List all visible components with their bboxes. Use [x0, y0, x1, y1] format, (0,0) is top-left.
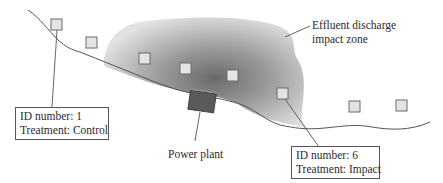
zone-label-leader	[285, 26, 310, 37]
callout-1-leader	[52, 30, 57, 107]
sample-site-marker[interactable]	[86, 37, 97, 48]
power-plant-icon	[188, 89, 217, 112]
sample-site-marker[interactable]	[139, 53, 150, 64]
callout-site-6: ID number: 6 Treatment: Impact	[291, 146, 380, 179]
sample-site-marker[interactable]	[277, 88, 288, 99]
sample-site-marker[interactable]	[51, 19, 62, 30]
sample-site-marker[interactable]	[396, 100, 407, 111]
impact-zone-label-line2: impact zone	[312, 33, 368, 45]
power-plant-leader	[195, 112, 200, 141]
callout-6-id: ID number: 6	[296, 149, 375, 163]
power-plant-label: Power plant	[168, 147, 223, 161]
sample-site-marker[interactable]	[349, 101, 360, 112]
sample-site-marker[interactable]	[227, 70, 238, 81]
impact-zone-label-line1: Effluent discharge	[312, 19, 396, 31]
callout-1-treatment: Treatment: Control	[20, 124, 104, 138]
impact-zone-label: Effluent discharge impact zone	[312, 18, 396, 46]
callout-site-1: ID number: 1 Treatment: Control	[15, 107, 109, 140]
callout-6-treatment: Treatment: Impact	[296, 163, 375, 177]
callout-1-id: ID number: 1	[20, 110, 104, 124]
sample-site-marker[interactable]	[180, 63, 191, 74]
